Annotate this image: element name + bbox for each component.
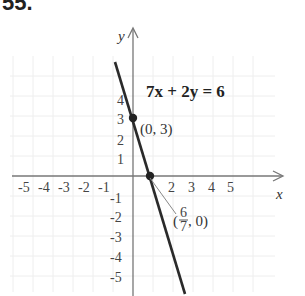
svg-text:-4: -4 (110, 250, 122, 265)
svg-text:-2: -2 (110, 210, 122, 225)
svg-text:7: 7 (180, 219, 187, 234)
svg-text:-4: -4 (38, 180, 50, 195)
svg-text:-1: -1 (98, 180, 110, 195)
svg-text:4: 4 (208, 180, 215, 195)
svg-text:2: 2 (168, 180, 175, 195)
svg-text:-1: -1 (110, 191, 122, 206)
svg-text:4: 4 (117, 93, 124, 108)
svg-text:-3: -3 (58, 180, 70, 195)
svg-text:-5: -5 (110, 270, 122, 285)
svg-text:-2: -2 (78, 180, 90, 195)
x-axis-label: x (275, 186, 283, 202)
svg-text:5: 5 (227, 180, 234, 195)
grid (10, 56, 275, 292)
svg-text:-3: -3 (110, 230, 122, 245)
svg-text:6: 6 (180, 205, 187, 220)
graph: y x -5 -4 -3 -2 -1 2 3 4 5 4 3 2 1 -1 -2… (0, 0, 305, 296)
y-axis-label: y (116, 28, 125, 44)
y-intercept-point (129, 114, 137, 122)
svg-text:3: 3 (117, 112, 124, 127)
svg-text:, 0): , 0) (188, 213, 208, 230)
svg-text:2: 2 (117, 133, 124, 148)
svg-text:3: 3 (188, 180, 195, 195)
x-intercept-point (146, 172, 154, 180)
x-intercept-label: ( 6 7 , 0) (173, 205, 208, 234)
svg-text:(: ( (173, 213, 178, 230)
y-intercept-label: (0, 3) (140, 121, 173, 138)
svg-text:1: 1 (117, 152, 124, 167)
equation-label: 7x + 2y = 6 (146, 82, 225, 101)
x-tick-labels: -5 -4 -3 -2 -1 2 3 4 5 (18, 180, 234, 195)
svg-text:-5: -5 (18, 180, 30, 195)
